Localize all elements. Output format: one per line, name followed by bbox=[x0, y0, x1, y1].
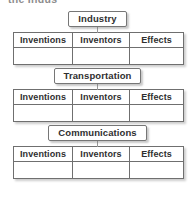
column-header-inventions: Inventions bbox=[14, 147, 73, 162]
page-title-fragment: the Indus bbox=[8, 0, 128, 3]
table-transportation: Inventions Inventors Effects bbox=[13, 89, 184, 122]
table-row bbox=[14, 105, 184, 122]
organizer-section-transportation: Transportation Inventions Inventors Effe… bbox=[0, 68, 195, 85]
section-label-transportation[interactable]: Transportation bbox=[54, 68, 142, 84]
column-header-effects: Effects bbox=[130, 33, 184, 48]
organizer-section-industry: Industry Inventions Inventors Effects bbox=[0, 11, 195, 28]
table-header-row: Inventions Inventors Effects bbox=[14, 90, 184, 105]
column-header-effects: Effects bbox=[130, 90, 184, 105]
column-header-inventions: Inventions bbox=[14, 33, 73, 48]
cell-effects[interactable] bbox=[130, 105, 184, 122]
table-industry: Inventions Inventors Effects bbox=[13, 32, 184, 65]
section-header-row: Communications bbox=[0, 125, 195, 142]
connector-line bbox=[97, 26, 98, 33]
column-header-inventors: Inventors bbox=[73, 90, 130, 105]
column-header-effects: Effects bbox=[130, 147, 184, 162]
table-wrapper: Inventions Inventors Effects bbox=[13, 146, 183, 179]
table-header-row: Inventions Inventors Effects bbox=[14, 33, 184, 48]
cell-inventors[interactable] bbox=[73, 162, 130, 179]
cell-inventions[interactable] bbox=[14, 162, 73, 179]
table-communications: Inventions Inventors Effects bbox=[13, 146, 184, 179]
table-row bbox=[14, 48, 184, 65]
section-header-row: Industry bbox=[0, 11, 195, 28]
column-header-inventors: Inventors bbox=[73, 147, 130, 162]
table-wrapper: Inventions Inventors Effects bbox=[13, 89, 183, 122]
table-row bbox=[14, 162, 184, 179]
cell-effects[interactable] bbox=[130, 162, 184, 179]
cell-inventions[interactable] bbox=[14, 48, 73, 65]
cell-effects[interactable] bbox=[130, 48, 184, 65]
column-header-inventors: Inventors bbox=[73, 33, 130, 48]
cell-inventors[interactable] bbox=[73, 105, 130, 122]
column-header-inventions: Inventions bbox=[14, 90, 73, 105]
cell-inventors[interactable] bbox=[73, 48, 130, 65]
section-label-industry[interactable]: Industry bbox=[68, 11, 126, 27]
table-wrapper: Inventions Inventors Effects bbox=[13, 32, 183, 65]
connector-line bbox=[97, 140, 98, 147]
graphic-organizer: the Indus Industry Inventions Inventors … bbox=[0, 0, 195, 202]
cell-inventions[interactable] bbox=[14, 105, 73, 122]
section-header-row: Transportation bbox=[0, 68, 195, 85]
section-label-communications[interactable]: Communications bbox=[48, 125, 146, 141]
table-header-row: Inventions Inventors Effects bbox=[14, 147, 184, 162]
organizer-section-communications: Communications Inventions Inventors Effe… bbox=[0, 125, 195, 142]
connector-line bbox=[97, 83, 98, 90]
